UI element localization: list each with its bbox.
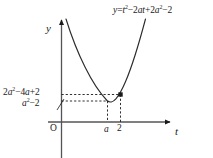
y-value-label-upper: 2a2−4a+2 <box>3 88 40 98</box>
point-marker-t2 <box>118 92 122 96</box>
y-axis-label: y <box>46 23 51 34</box>
leader-line <box>57 99 64 110</box>
origin-label: O <box>50 124 57 134</box>
y-value-label-lower: a2−2 <box>22 99 39 109</box>
x-tick-label-2: 2 <box>117 124 122 134</box>
equation-label: y=t2−2at+2a2−2 <box>113 6 172 16</box>
x-tick-label-a: a <box>104 125 109 135</box>
parabola-curve <box>66 19 146 102</box>
t-axis-label: t <box>175 126 178 137</box>
math-graph-figure: y=t2−2at+2a2−2 y t O 2a2−4a+2 a2−2 a 2 <box>0 0 213 158</box>
